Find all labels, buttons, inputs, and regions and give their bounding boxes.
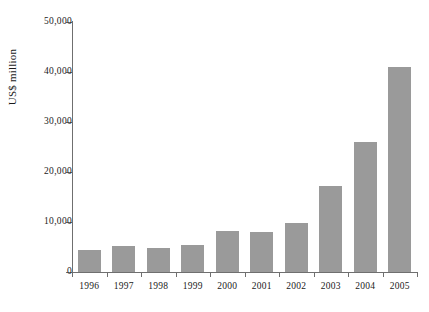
x-axis-tick-label: 2005: [390, 281, 410, 291]
x-axis-tick-label: 1997: [114, 281, 134, 291]
bar: [112, 246, 135, 272]
y-axis-tick-label: 30,000: [10, 117, 72, 127]
x-axis-tick: [141, 272, 142, 277]
x-axis-tick: [72, 272, 73, 277]
y-axis-tick-label: 20,000: [10, 167, 72, 177]
x-axis-tick-label: 1999: [183, 281, 203, 291]
y-axis-title: US$ million: [6, 22, 18, 132]
x-axis-tick-label: 2002: [286, 281, 306, 291]
x-axis-tick-label: 2000: [217, 281, 237, 291]
x-axis-tick-label: 1998: [148, 281, 168, 291]
bar-chart: US$ million 010,00020,00030,00040,00050,…: [0, 0, 429, 312]
x-axis-tick: [348, 272, 349, 277]
bar: [147, 248, 170, 272]
x-axis-tick: [176, 272, 177, 277]
bar: [78, 250, 101, 272]
plot-area: [72, 22, 417, 272]
y-axis-tick-label: 0: [10, 267, 72, 277]
y-axis-tick-label: 50,000: [10, 17, 72, 27]
x-axis-tick: [417, 272, 418, 277]
x-axis-tick-label: 2004: [355, 281, 375, 291]
x-axis-tick-label: 2001: [252, 281, 272, 291]
bar: [319, 186, 342, 272]
x-axis-tick: [383, 272, 384, 277]
x-axis-tick: [279, 272, 280, 277]
bar: [388, 67, 411, 272]
bar: [285, 223, 308, 272]
y-axis-tick-label: 40,000: [10, 67, 72, 77]
bar: [250, 232, 273, 272]
bar: [354, 142, 377, 272]
x-axis-tick: [107, 272, 108, 277]
x-axis-tick-label: 2003: [321, 281, 341, 291]
x-axis-tick: [245, 272, 246, 277]
bar: [216, 231, 239, 272]
x-axis-tick-label: 1996: [79, 281, 99, 291]
y-axis-tick-label: 10,000: [10, 217, 72, 227]
x-axis-tick: [314, 272, 315, 277]
bar: [181, 245, 204, 272]
x-axis-tick: [210, 272, 211, 277]
